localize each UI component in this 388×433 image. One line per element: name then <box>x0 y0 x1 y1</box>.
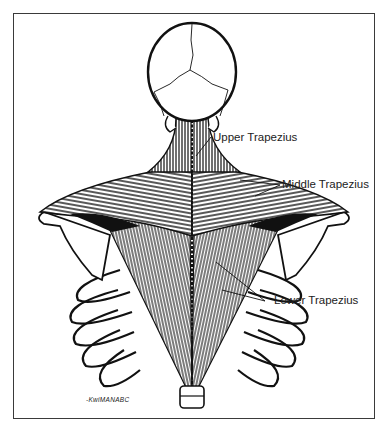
artist-signature: -KwiMANABC <box>86 396 129 403</box>
label-middle-trapezius: Middle Trapezius <box>282 178 369 190</box>
trapezius-illustration <box>0 0 388 433</box>
label-upper-trapezius: Upper Trapezius <box>213 131 297 143</box>
skull <box>148 23 236 132</box>
lower-trapezius <box>104 218 192 400</box>
sacrum <box>180 386 204 408</box>
label-lower-trapezius: Lower Trapezius <box>274 294 358 306</box>
upper-trapezius <box>148 118 240 172</box>
